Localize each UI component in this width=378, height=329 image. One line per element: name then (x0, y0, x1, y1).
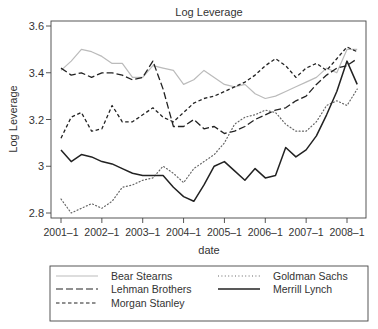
legend-label: Lehman Brothers (111, 283, 192, 295)
legend-label: Morgan Stanley (111, 297, 185, 309)
legend-label: Goldman Sachs (273, 270, 348, 282)
y-tick-label: 3 (38, 160, 44, 172)
legend-label: Bear Stearns (111, 270, 172, 282)
series-layer (61, 47, 357, 213)
x-tick-label: 2007–1 (289, 226, 324, 238)
x-axis-label: date (198, 244, 219, 256)
series-morgan-stanley (61, 47, 357, 138)
y-tick-label: 3.4 (29, 67, 44, 79)
x-tick-label: 2002–1 (84, 226, 119, 238)
x-tick-label: 2004–1 (166, 226, 201, 238)
x-tick-label: 2001–1 (43, 226, 78, 238)
x-tick-label: 2003–1 (125, 226, 160, 238)
y-tick-label: 3.2 (29, 114, 44, 126)
y-axis: 2.833.23.43.6 (29, 20, 51, 219)
legend-label: Merrill Lynch (273, 283, 332, 295)
series-bear-stearns (61, 49, 357, 98)
chart-title: Log Leverage (175, 6, 242, 18)
x-tick-label: 2005–1 (207, 226, 242, 238)
y-axis-label: Log Leverage (7, 85, 19, 152)
plot-area-frame (51, 21, 366, 218)
series-goldman-sachs (61, 89, 357, 213)
x-tick-label: 2006–1 (248, 226, 283, 238)
chart: Log Leverage 2.833.23.43.6 2001–12002–12… (0, 0, 378, 329)
y-tick-label: 2.8 (29, 207, 44, 219)
y-tick-label: 3.6 (29, 20, 44, 32)
x-tick-label: 2008–1 (329, 226, 364, 238)
x-axis: 2001–12002–12003–12004–12005–12006–12007… (43, 218, 364, 238)
series-merrill-lynch (61, 61, 357, 201)
